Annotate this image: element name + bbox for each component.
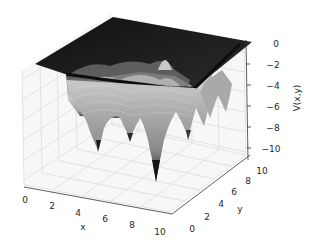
z-tick-2: −4 — [266, 81, 280, 91]
z-axis-label: V(x,y) — [292, 85, 302, 112]
y-tick-2: 4 — [218, 199, 224, 209]
y-tick-5: 10 — [256, 166, 268, 176]
x-tick-2: 4 — [75, 208, 81, 218]
x-tick-5: 10 — [154, 227, 166, 237]
x-tick-0: 0 — [22, 195, 28, 205]
x-tick-1: 2 — [49, 201, 55, 211]
x-axis-label: x — [80, 222, 86, 232]
y-tick-4: 8 — [245, 176, 251, 186]
surface-plot: 0 −2 −4 −6 −8 −10 V(x,y) 0 2 4 6 8 10 x … — [0, 0, 319, 248]
z-axis: 0 −2 −4 −6 −8 −10 V(x,y) — [246, 39, 302, 154]
y-tick-3: 6 — [231, 187, 237, 197]
z-tick-1: −2 — [266, 60, 279, 70]
y-tick-0: 0 — [189, 224, 195, 234]
x-tick-4: 8 — [129, 220, 135, 230]
figure: 0 −2 −4 −6 −8 −10 V(x,y) 0 2 4 6 8 10 x … — [0, 0, 319, 248]
z-tick-3: −6 — [266, 102, 280, 112]
y-axis-label: y — [237, 204, 243, 214]
y-tick-1: 2 — [204, 212, 210, 222]
z-tick-4: −8 — [266, 123, 280, 133]
z-tick-0: 0 — [273, 39, 279, 49]
z-tick-5: −10 — [262, 144, 281, 154]
x-tick-3: 6 — [102, 214, 108, 224]
